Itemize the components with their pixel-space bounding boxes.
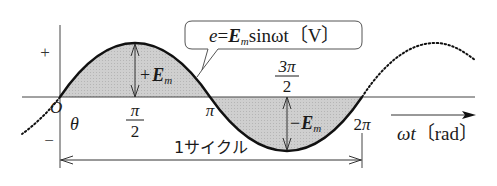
cycle-dimension-arrow	[60, 156, 362, 164]
cycle-label: 1サイクル	[174, 138, 248, 157]
y-plus-label: +	[40, 43, 50, 62]
x-axis-label: ωt〔rad〕	[397, 123, 478, 144]
omega-t-axis-arrow	[391, 111, 476, 119]
tick-3pi-over-2: 3π 2	[275, 57, 299, 96]
svg-text:2: 2	[283, 77, 292, 96]
svg-text:3π: 3π	[277, 57, 296, 76]
tick-2pi: 2π	[353, 115, 371, 134]
equation-text: e=Emsinωt〔V〕	[209, 25, 341, 47]
theta-label: θ	[70, 114, 79, 134]
tick-pi-over-2: π 2	[126, 101, 144, 141]
origin-label: O	[50, 98, 62, 117]
dotted-continuation-right	[362, 43, 475, 97]
svg-text:2: 2	[131, 122, 140, 141]
y-minus-label: −	[44, 131, 54, 150]
tick-pi: π	[206, 101, 215, 120]
sine-wave-diagram: e=Emsinωt〔V〕 + − O θ π 2 π 3π 2 2π +Em −…	[0, 0, 497, 186]
svg-text:π: π	[131, 101, 140, 120]
